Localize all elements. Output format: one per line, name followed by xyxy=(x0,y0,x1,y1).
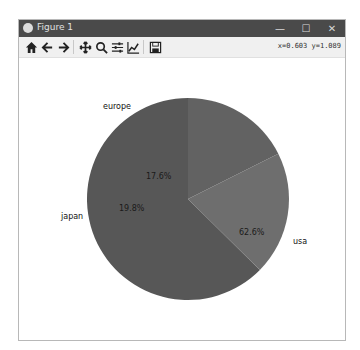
app-icon xyxy=(23,23,33,33)
zoom-icon xyxy=(95,41,108,54)
minimize-button[interactable]: — xyxy=(267,20,293,37)
back-icon xyxy=(41,41,54,54)
home-icon xyxy=(25,41,38,54)
pct-usa: 62.6% xyxy=(239,228,264,237)
save-icon xyxy=(149,41,162,54)
back-button[interactable] xyxy=(39,39,55,55)
label-japan: japan xyxy=(61,212,83,221)
window-title: Figure 1 xyxy=(37,22,73,32)
pan-button[interactable] xyxy=(77,39,93,55)
pct-japan: 19.8% xyxy=(119,204,144,213)
subplots-icon xyxy=(111,41,124,54)
toolbar-separator xyxy=(143,40,144,54)
zoom-button[interactable] xyxy=(93,39,109,55)
title-bar: Figure 1 — ☐ ✕ xyxy=(19,20,345,37)
label-europe: europe xyxy=(103,102,131,111)
edit-axis-icon xyxy=(127,41,140,54)
figure-window: Figure 1 — ☐ ✕ x=0.603 y=1.089 xyxy=(18,19,346,341)
close-button[interactable]: ✕ xyxy=(319,20,345,37)
cursor-coordinates: x=0.603 y=1.089 xyxy=(278,42,341,50)
save-button[interactable] xyxy=(147,39,163,55)
pct-europe: 17.6% xyxy=(146,172,171,181)
pan-icon xyxy=(79,41,92,54)
subplots-button[interactable] xyxy=(109,39,125,55)
forward-button[interactable] xyxy=(55,39,71,55)
navigation-toolbar: x=0.603 y=1.089 xyxy=(19,37,345,58)
pie-chart xyxy=(19,58,345,340)
maximize-button[interactable]: ☐ xyxy=(293,20,319,37)
label-usa: usa xyxy=(293,237,307,246)
forward-icon xyxy=(57,41,70,54)
edit-axis-button[interactable] xyxy=(125,39,141,55)
figure-canvas[interactable]: europe japan usa 17.6% 19.8% 62.6% xyxy=(19,58,345,340)
toolbar-separator xyxy=(73,40,74,54)
home-button[interactable] xyxy=(23,39,39,55)
